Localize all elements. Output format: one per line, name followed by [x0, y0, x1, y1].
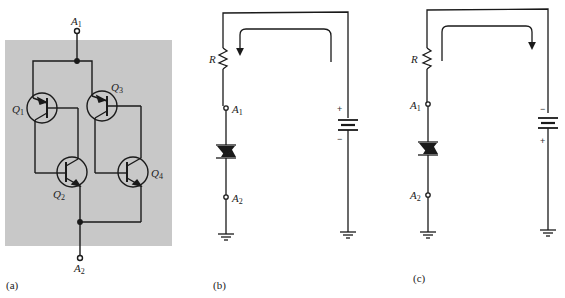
terminal-a1 [75, 29, 80, 34]
panel-b [216, 12, 358, 240]
battery-bottom-sign-c: + [540, 136, 545, 146]
battery-top-sign-c: − [540, 104, 545, 114]
ground-right-b [340, 232, 356, 238]
panel-b-labels: R A1 A2 + − (b) [208, 53, 342, 292]
label-a2-b: A2 [231, 192, 243, 206]
label-a1-c: A1 [409, 99, 421, 113]
terminal-a1-c [426, 102, 430, 106]
caption-c: (c) [413, 272, 426, 285]
label-r-b: R [208, 53, 216, 65]
battery-b [338, 120, 358, 130]
label-r-c: R [410, 53, 418, 65]
current-arrow-c [442, 26, 532, 61]
terminal-a1-b [224, 106, 228, 110]
diac-b [216, 145, 236, 158]
battery-bottom-sign-b: − [337, 134, 342, 144]
terminal-a2-c [426, 193, 430, 197]
caption-b: (b) [213, 279, 226, 292]
label-a2: A2 [73, 262, 85, 276]
current-arrow-b [240, 29, 331, 62]
label-a2-c: A2 [409, 189, 421, 203]
resistor-r-b [219, 48, 227, 69]
panel-a-background [5, 40, 172, 246]
panel-c [418, 9, 558, 238]
label-a1: A1 [70, 15, 82, 29]
ground-left-c [420, 232, 436, 238]
terminal-a2-b [224, 195, 228, 199]
label-a1-b: A1 [231, 103, 243, 117]
diac-c [418, 142, 438, 155]
terminal-a2 [78, 256, 83, 261]
ground-right-c [540, 230, 556, 236]
caption-a: (a) [6, 279, 19, 292]
panel-a [5, 29, 172, 261]
ground-left-b [218, 234, 234, 240]
resistor-r-c [423, 48, 431, 69]
panel-c-labels: R A1 A2 − + (c) [409, 53, 545, 285]
battery-c [538, 118, 558, 128]
battery-top-sign-b: + [337, 104, 342, 114]
circuit-figure: A1 A2 Q1 Q2 Q3 Q4 (a) [0, 0, 565, 298]
